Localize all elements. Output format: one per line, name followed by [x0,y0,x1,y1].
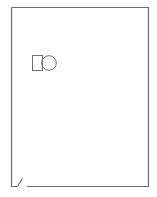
circle-shape [42,56,57,71]
diagram-canvas [0,0,157,197]
fold-mark [18,179,23,187]
page-frame [12,8,149,187]
square-shape [33,56,43,71]
page-outline [0,0,157,197]
